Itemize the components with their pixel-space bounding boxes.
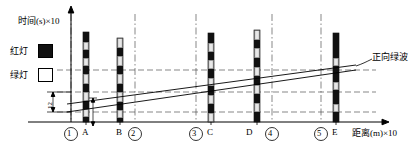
signal-bar-C[interactable] — [208, 33, 214, 122]
signal-bar-D[interactable] — [254, 30, 260, 122]
green-phase — [209, 96, 213, 103]
green-phase — [84, 43, 88, 49]
time-space-diagram-svg — [0, 0, 411, 153]
red-phase — [83, 101, 89, 109]
red-phase — [333, 112, 339, 122]
legend-swatch-red-light — [38, 44, 53, 58]
green-phase — [255, 31, 259, 39]
red-phase — [254, 58, 260, 67]
green-phase — [209, 44, 213, 51]
green-phase — [118, 39, 122, 47]
green-phase — [84, 59, 88, 65]
x-tick-label-B: B — [116, 128, 122, 137]
legend-label-green: 绿灯 — [10, 71, 28, 80]
red-phase — [333, 90, 339, 104]
green-phase — [334, 105, 338, 111]
x-tick-label-D: D — [246, 128, 253, 137]
red-phase — [83, 117, 89, 122]
x-tick-label-2: 2 — [131, 129, 135, 138]
phase-marker-arrow-up — [91, 98, 94, 102]
x-tick-label-1: 1 — [67, 129, 71, 138]
y-axis-label: 时间(s)×10 — [18, 17, 60, 26]
x-axis-label: 距离(m)×10 — [352, 129, 397, 138]
green-phase — [255, 104, 259, 111]
red-phase — [254, 40, 260, 48]
green-phase — [209, 61, 213, 68]
x-tick-label-3: 3 — [192, 129, 196, 138]
offset-value-label: 12 — [47, 102, 54, 109]
legend-label-red: 红灯 — [10, 47, 28, 56]
x-tick-label-4: 4 — [268, 129, 272, 138]
green-phase — [84, 93, 88, 100]
red-phase — [254, 112, 260, 122]
red-phase — [208, 104, 214, 113]
x-tick-label-E: E — [332, 128, 338, 137]
green-phase — [84, 110, 88, 116]
red-phase — [208, 33, 214, 43]
green-phase — [118, 75, 122, 83]
green-phase — [209, 114, 213, 121]
figure-canvas: 时间(s)×10 红灯 绿灯 12 正向绿波 1 A B 2 3 C D 4 5… — [0, 0, 411, 153]
red-phase — [83, 50, 89, 58]
horizontal-gridlines — [57, 70, 376, 112]
red-phase — [117, 102, 123, 110]
x-tick-label-5: 5 — [317, 129, 321, 138]
red-phase — [117, 48, 123, 56]
signal-bar-E[interactable] — [333, 33, 339, 122]
red-phase — [208, 69, 214, 78]
phase-marker-arrow-down — [91, 122, 94, 126]
red-phase — [254, 94, 260, 103]
red-phase — [83, 84, 89, 92]
signal-bar-B[interactable] — [117, 38, 123, 122]
green-wave-band-label: 正向绿波 — [372, 53, 408, 62]
offset-arrow-up — [51, 92, 55, 97]
red-phase — [208, 52, 214, 60]
green-phase — [118, 57, 122, 65]
legend-swatch-green-light — [38, 68, 53, 82]
green-phase — [118, 111, 122, 117]
red-phase — [117, 66, 123, 74]
red-phase — [117, 84, 123, 92]
green-phase — [84, 75, 88, 83]
green-phase — [255, 49, 259, 57]
x-tick-label-A: A — [82, 128, 89, 137]
red-phase — [117, 118, 123, 122]
green-wave-leader — [356, 59, 372, 66]
green-phase — [334, 59, 338, 65]
red-phase — [333, 33, 339, 58]
y-axis-arrowhead — [68, 6, 74, 13]
red-phase — [83, 66, 89, 74]
red-phase — [83, 32, 89, 42]
green-phase — [334, 83, 338, 89]
green-phase — [255, 68, 259, 75]
x-tick-label-C: C — [207, 128, 213, 137]
x-axis-arrowhead — [382, 119, 389, 125]
green-phase — [255, 86, 259, 93]
